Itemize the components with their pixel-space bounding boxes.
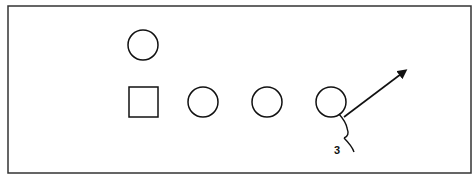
diagram-frame [8,6,471,173]
motion-label: 3 [334,144,340,156]
play-diagram: 3 [0,0,476,176]
